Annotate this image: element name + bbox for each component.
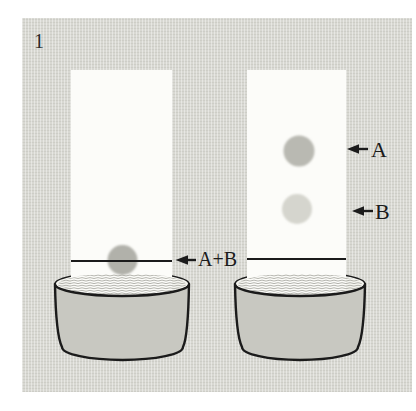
figure: 1 A+B A	[0, 0, 416, 411]
chromatography-diagram: 1 A+B A	[0, 0, 416, 411]
figure-number: 1	[34, 30, 44, 52]
a-spot-label: A	[371, 137, 387, 162]
spot-a	[284, 136, 315, 167]
b-left-arrow-icon	[352, 206, 373, 215]
combined-left-arrow-icon	[176, 255, 197, 265]
spot-b	[282, 194, 312, 224]
combined-spot-label: A+B	[198, 248, 237, 270]
spot-combined	[108, 245, 138, 275]
right-dish-wall	[235, 284, 365, 360]
left-dish-wall	[55, 284, 189, 360]
a-left-arrow-icon	[347, 144, 368, 153]
b-spot-label: B	[375, 199, 390, 224]
right-paper-strip	[247, 70, 346, 294]
